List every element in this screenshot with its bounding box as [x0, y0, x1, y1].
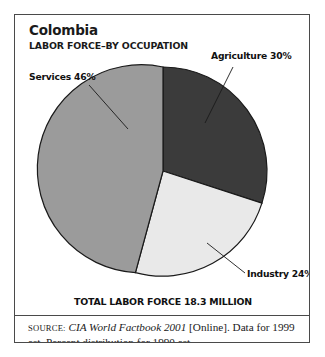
- pie-chart-area: Services 46% Agriculture 30% Industry 24…: [15, 15, 310, 315]
- pie-slice-services[interactable]: [37, 65, 163, 273]
- source-work-title: CIA World Factbook 2001: [69, 321, 187, 333]
- source-note: SOURCE: CIA World Factbook 2001 [Online]…: [28, 320, 300, 343]
- figure-frame: Colombia LABOR FORCE–BY OCCUPATION Servi…: [14, 14, 310, 343]
- source-label: SOURCE:: [28, 323, 66, 333]
- slice-label-services: Services 46%: [29, 71, 95, 82]
- slice-label-agriculture: Agriculture 30%: [211, 50, 291, 61]
- total-labor-force-caption: TOTAL LABOR FORCE 18.3 MILLION: [15, 296, 310, 307]
- source-divider: [15, 315, 310, 316]
- slice-label-industry: Industry 24%: [247, 268, 310, 279]
